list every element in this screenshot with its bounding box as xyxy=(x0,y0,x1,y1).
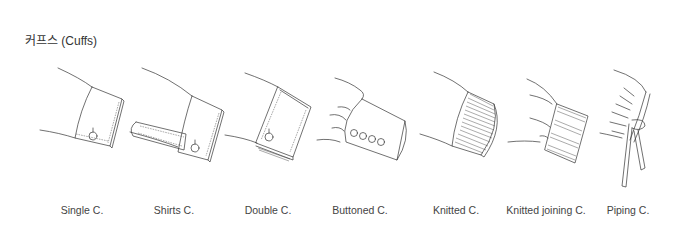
knitted-joining-cuff-illustration xyxy=(508,79,588,163)
buttoned-cuff-illustration xyxy=(317,78,406,160)
label-shirts-cuff: Shirts C. xyxy=(154,204,194,216)
label-knitted-joining-cuff: Knitted joining C. xyxy=(506,204,585,216)
label-piping-cuff: Piping C. xyxy=(607,204,650,216)
single-cuff-illustration xyxy=(40,68,124,148)
shirts-cuff-illustration xyxy=(130,68,224,162)
double-cuff-illustration xyxy=(225,73,311,161)
knitted-cuff-illustration xyxy=(420,72,497,157)
label-knitted-cuff: Knitted C. xyxy=(433,204,479,216)
label-single-cuff: Single C. xyxy=(61,204,104,216)
label-double-cuff: Double C. xyxy=(245,204,292,216)
label-buttoned-cuff: Buttoned C. xyxy=(332,204,387,216)
piping-cuff-illustration xyxy=(600,70,650,187)
